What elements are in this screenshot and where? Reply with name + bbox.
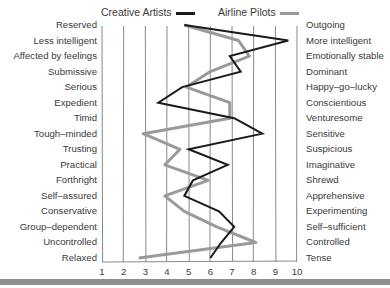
- right-trait-label: Controlled: [306, 236, 350, 247]
- x-tick-label: 10: [292, 266, 303, 277]
- left-trait-label: Trusting: [63, 143, 97, 154]
- left-trait-label: Less intelligent: [34, 35, 97, 46]
- left-trait-label: Relaxed: [62, 252, 97, 263]
- left-trait-label: Timid: [74, 112, 97, 123]
- left-trait-label: Submissive: [48, 66, 97, 77]
- legend-swatch-pilots: [280, 12, 299, 15]
- x-tick-label: 1: [99, 266, 104, 277]
- right-trait-label: Tense: [306, 252, 332, 263]
- right-trait-label: Apprehensive: [306, 190, 365, 201]
- left-trait-label: Self–assured: [41, 190, 97, 201]
- x-tick-label: 4: [164, 266, 169, 277]
- right-trait-label: Venturesome: [306, 112, 363, 123]
- right-trait-label: Experimenting: [306, 205, 367, 216]
- x-tick-label: 7: [229, 266, 234, 277]
- right-trait-label: Shrewd: [306, 174, 339, 185]
- right-trait-label: Conscientious: [306, 97, 366, 108]
- left-trait-label: Reserved: [56, 19, 97, 30]
- x-tick-label: 6: [208, 266, 213, 277]
- legend-airline-pilots: Airline Pilots: [218, 6, 299, 18]
- x-tick-label: 3: [143, 266, 148, 277]
- bottom-divider: [0, 279, 390, 285]
- left-trait-label: Expedient: [54, 97, 97, 108]
- right-trait-label: Dominant: [306, 66, 347, 77]
- left-trait-label: Group–dependent: [20, 221, 97, 232]
- left-trait-label: Affected by feelings: [13, 50, 97, 61]
- series-creative-artists: [158, 25, 288, 258]
- left-trait-label: Practical: [60, 159, 97, 170]
- left-trait-label: Tough–minded: [34, 128, 97, 139]
- right-trait-label: Imaginative: [306, 159, 355, 170]
- gridline: [102, 26, 103, 262]
- right-trait-label: Sensitive: [306, 128, 345, 139]
- right-trait-label: Emotionally stable: [306, 50, 384, 61]
- left-trait-label: Conservative: [41, 205, 97, 216]
- left-trait-label: Forthright: [56, 174, 97, 185]
- gridlines: [102, 26, 297, 262]
- x-tick-label: 8: [251, 266, 256, 277]
- left-trait-label: Serious: [64, 81, 97, 92]
- right-trait-label: More intelligent: [306, 35, 371, 46]
- legend-creative-artists: Creative Artists: [101, 6, 195, 18]
- right-trait-label: Self–sufficient: [306, 221, 366, 232]
- x-tick-label: 9: [273, 266, 278, 277]
- series-airline-pilots: [139, 25, 256, 258]
- right-trait-label: Happy–go–lucky: [306, 81, 377, 92]
- legend-swatch-creative: [176, 12, 195, 15]
- right-trait-label: Outgoing: [306, 19, 345, 30]
- right-trait-label: Suspicious: [306, 143, 352, 154]
- gridline: [275, 26, 276, 262]
- x-tick-label: 5: [186, 266, 191, 277]
- x-axis-line: [102, 261, 297, 262]
- left-trait-label: Uncontrolled: [43, 236, 97, 247]
- gridline: [189, 26, 190, 262]
- gridline: [145, 26, 146, 262]
- x-tick-label: 2: [121, 266, 126, 277]
